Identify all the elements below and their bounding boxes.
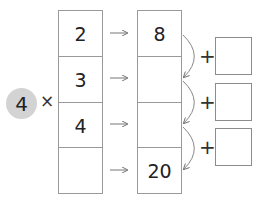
curved-arrow-icon: [183, 35, 194, 169]
plus-sign: +: [199, 137, 216, 157]
addition-answer-box[interactable]: [215, 128, 252, 166]
plus-sign: +: [199, 92, 216, 112]
plus-sign: +: [199, 46, 216, 66]
addition-answer-box[interactable]: [215, 37, 252, 75]
addition-answer-box[interactable]: [215, 83, 252, 121]
right-arrow-icon: [110, 33, 127, 170]
